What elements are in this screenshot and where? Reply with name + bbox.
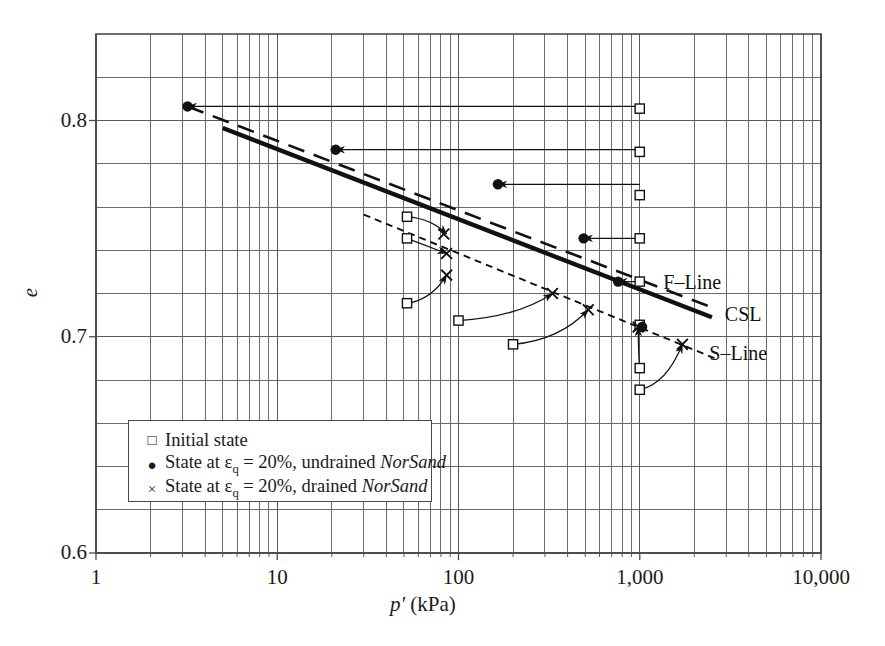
x-tick-10000: 10,000 <box>766 565 876 590</box>
marker-initial-state <box>635 234 644 243</box>
s-line-label: S–Line <box>709 342 767 365</box>
legend-drained-model: NorSand <box>362 476 428 496</box>
legend-item-undrained: ●State at εq = 20%, undrained NorSand <box>139 450 446 474</box>
legend-item-initial-state: □Initial state <box>139 426 248 450</box>
x-tick-10: 10 <box>237 565 317 590</box>
f-line-label: F–Line <box>663 271 721 294</box>
x-axis-unit: (kPa) <box>410 592 456 616</box>
marker-initial-state <box>402 299 411 308</box>
x-tick-1: 1 <box>56 565 136 590</box>
marker-initial-state <box>402 234 411 243</box>
x-tick-100: 100 <box>414 565 504 590</box>
y-tick-0.7: 0.7 <box>33 324 87 349</box>
y-tick-0.8: 0.8 <box>33 108 87 133</box>
marker-initial-state <box>635 277 644 286</box>
y-axis-label: e <box>18 287 43 296</box>
marker-initial-state <box>635 191 644 200</box>
csl-label: CSL <box>725 303 762 326</box>
x-axis-label: p′ (kPa) <box>390 592 456 617</box>
legend: □Initial state ●State at εq = 20%, undra… <box>128 420 432 502</box>
marker-undrained-state <box>330 144 340 154</box>
legend-undrained-mid: = 20%, undrained <box>239 452 380 472</box>
marker-initial-state <box>635 104 644 113</box>
marker-undrained-state <box>613 276 623 286</box>
marker-initial-state <box>508 340 517 349</box>
x-axis-symbol: p′ <box>390 592 405 616</box>
legend-undrained-model: NorSand <box>380 452 446 472</box>
marker-initial-state <box>454 316 463 325</box>
x-tick-1000: 1,000 <box>590 565 690 590</box>
marker-initial-state <box>635 147 644 156</box>
marker-initial-state <box>635 364 644 373</box>
legend-drained-mid: = 20%, drained <box>239 476 362 496</box>
legend-undrained-pre: State at ε <box>165 452 232 472</box>
marker-undrained-state <box>578 233 588 243</box>
cross-icon: × <box>139 477 165 501</box>
open-square-icon: □ <box>139 428 165 452</box>
marker-undrained-state <box>493 179 503 189</box>
legend-label-initial-state: Initial state <box>165 428 248 452</box>
y-tick-0.6: 0.6 <box>33 540 87 565</box>
marker-undrained-state <box>182 101 192 111</box>
legend-item-drained: ×State at εq = 20%, drained NorSand <box>139 474 427 498</box>
marker-initial-state <box>402 212 411 221</box>
legend-drained-pre: State at ε <box>165 476 232 496</box>
legend-label-drained: State at εq = 20%, drained NorSand <box>165 474 427 505</box>
marker-initial-state <box>635 385 644 394</box>
